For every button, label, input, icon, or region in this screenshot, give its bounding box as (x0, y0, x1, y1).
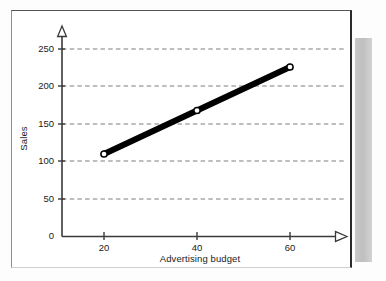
x-tick-label-40: 40 (182, 242, 212, 253)
data-series-sales (101, 64, 293, 157)
x-axis-arrowhead-icon (336, 232, 348, 242)
gridlines (62, 49, 345, 199)
data-point-marker (194, 107, 200, 113)
y-axis-arrowhead-icon (58, 26, 67, 37)
y-axis-title: Sales (18, 109, 29, 169)
figure-root: 250 200 150 100 50 0 20 40 60 Sales Adve… (0, 0, 386, 281)
x-tick-label-60: 60 (275, 242, 305, 253)
data-point-marker (287, 64, 293, 70)
x-axis-title: Advertising budget (130, 253, 270, 264)
y-tick-label-50: 50 (20, 193, 54, 204)
x-axis (62, 232, 347, 242)
y-tick-label-0: 0 (20, 230, 54, 241)
chart-canvas (0, 0, 386, 281)
y-tick-label-250: 250 (20, 43, 54, 54)
y-axis (58, 26, 67, 237)
data-point-marker (101, 151, 107, 157)
y-tick-label-200: 200 (20, 80, 54, 91)
x-tick-label-20: 20 (89, 242, 119, 253)
